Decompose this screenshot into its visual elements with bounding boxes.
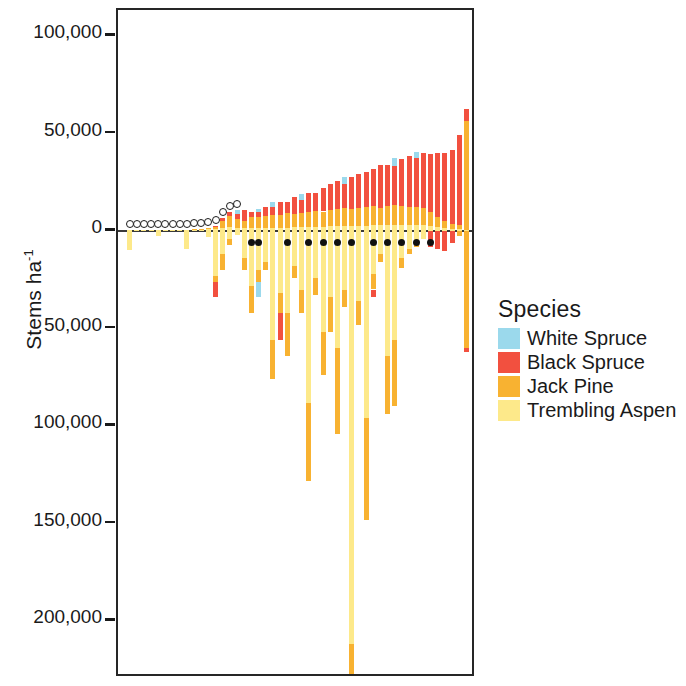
y-tick-label: 100,000: [6, 411, 102, 433]
bar-segment: [285, 313, 290, 356]
bar-segment: [450, 231, 455, 243]
bar-segment: [156, 231, 161, 236]
bar-segment: [378, 254, 383, 262]
bar-segment: [442, 221, 447, 228]
legend-entries: White SpruceBlack SpruceJack PineTrembli…: [498, 327, 686, 422]
bar-segment: [292, 197, 297, 215]
bar-segment: [149, 230, 154, 231]
bar-segment: [407, 249, 412, 255]
bar-segment: [435, 153, 440, 217]
bar-segment: [421, 208, 426, 226]
plot-area: [118, 10, 472, 674]
bar-segment: [235, 231, 240, 235]
bar-segment: [328, 297, 333, 332]
legend: Species White SpruceBlack SpruceJack Pin…: [498, 296, 686, 423]
bar-segment: [292, 214, 297, 227]
bar-segment: [464, 121, 469, 230]
bar-segment: [213, 282, 218, 298]
bar-segment: [457, 231, 462, 236]
bar-segment: [371, 206, 376, 226]
bar-segment: [299, 194, 304, 200]
bar-segment: [199, 229, 204, 230]
bar-segment: [235, 214, 240, 219]
bar-segment: [464, 348, 469, 352]
bar-segment: [270, 215, 275, 228]
bar-segment: [321, 231, 326, 332]
bar-segment: [399, 159, 404, 206]
bar-segment: [442, 231, 447, 251]
bar-segment: [256, 217, 261, 228]
bar-segment: [278, 202, 283, 216]
bar-segment: [328, 231, 333, 297]
bar-segment: [349, 644, 354, 676]
bar-segment: [206, 228, 211, 229]
legend-title: Species: [498, 296, 686, 323]
filled-circle-marker: [284, 239, 291, 246]
bar-segment: [378, 208, 383, 226]
bar-segment: [306, 193, 311, 213]
bar-segment: [299, 290, 304, 313]
bar-segment: [364, 207, 369, 227]
bar-segment: [256, 209, 261, 213]
bar-segment: [292, 266, 297, 278]
bar-segment: [278, 313, 283, 340]
bar-segment: [184, 231, 189, 249]
bar-segment: [220, 218, 225, 221]
bar-segment: [227, 212, 232, 216]
filled-circle-marker: [320, 239, 327, 246]
bar-segment: [213, 231, 218, 276]
bar-segment: [335, 231, 340, 348]
bar-segment: [263, 216, 268, 228]
bar-segment: [235, 219, 240, 228]
bar-segment: [328, 210, 333, 227]
y-tick-label: 50,000: [6, 314, 102, 336]
bar-segment: [213, 227, 218, 229]
bar-segment: [177, 230, 182, 231]
legend-label: Jack Pine: [527, 375, 614, 398]
bar-segment: [141, 230, 146, 231]
bar-segment: [206, 231, 211, 237]
bar-segment: [306, 212, 311, 227]
bar-segment: [256, 212, 261, 217]
bar-segment: [321, 212, 326, 228]
y-tick-label: 50,000: [6, 119, 102, 141]
y-tick-mark: [105, 131, 115, 134]
bar-segment: [349, 209, 354, 227]
bar-segment: [356, 174, 361, 207]
bar-segment: [356, 208, 361, 227]
bar-segment: [349, 231, 354, 644]
bar-segment: [399, 206, 404, 226]
y-tick-mark: [105, 228, 115, 231]
bar-segment: [220, 231, 225, 254]
bar-segment: [249, 217, 254, 228]
bar-segment: [356, 231, 361, 301]
bar-segment: [371, 274, 376, 290]
bar-segment: [342, 208, 347, 227]
bar-segment: [242, 258, 247, 270]
y-tick-mark: [105, 33, 115, 36]
bar-segment: [220, 221, 225, 228]
bar-segment: [321, 188, 326, 211]
bar-segment: [313, 231, 318, 278]
bar-segment: [450, 150, 455, 224]
filled-circle-marker: [370, 239, 377, 246]
bar-segment: [392, 340, 397, 406]
bar-segment: [464, 231, 469, 348]
bar-segment: [227, 216, 232, 227]
bar-segment: [227, 231, 232, 239]
bar-segment: [285, 202, 290, 214]
y-tick-label: 150,000: [6, 509, 102, 531]
bar-segment: [435, 231, 440, 249]
bar-segment: [256, 282, 261, 298]
bar-segment: [464, 109, 469, 121]
bar-segment: [256, 231, 261, 270]
bar-segment: [299, 231, 304, 290]
open-circle-marker: [212, 216, 220, 224]
legend-item: Black Spruce: [498, 351, 686, 374]
bar-segment: [457, 225, 462, 229]
bar-segment: [392, 166, 397, 205]
y-tick-label: 200,000: [6, 606, 102, 628]
legend-swatch: [498, 376, 520, 397]
bar-segment: [163, 230, 168, 231]
open-circle-marker: [233, 200, 241, 208]
